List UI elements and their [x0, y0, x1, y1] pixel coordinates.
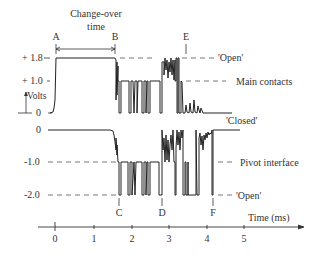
marker-b: B: [112, 31, 119, 42]
main-contacts-label: Main contacts: [236, 76, 292, 87]
x-tick-0: 0: [53, 233, 58, 244]
x-tick-3: 3: [167, 233, 172, 244]
x-tick-1: 1: [92, 233, 97, 244]
title-line-2: time: [87, 21, 105, 32]
top-ylabel-1p0: + 1.0: [22, 75, 43, 86]
top-ylabel-0: 0: [36, 107, 41, 118]
marker-d: D: [158, 207, 165, 218]
marker-f: F: [210, 207, 216, 218]
bottom-ylabel-m2: -2.0: [24, 189, 40, 200]
x-tick-2: 2: [130, 233, 135, 244]
x-tick-4: 4: [205, 233, 210, 244]
x-tick-5: 5: [242, 233, 247, 244]
bottom-ylabel-0: 0: [36, 124, 41, 135]
main-contacts-trace: [50, 58, 232, 113]
top-ylabel-1p8: + 1.8: [22, 52, 43, 63]
volts-label: Volts: [27, 91, 47, 101]
volts-arrow: [25, 92, 28, 113]
pivot-interface-label: Pivot interface: [240, 157, 299, 168]
bottom-open-label: 'Open': [236, 190, 261, 201]
bottom-ylabel-m1: -1.0: [24, 156, 40, 167]
marker-e: E: [183, 31, 189, 42]
time-axis-label: Time (ms): [248, 212, 290, 224]
top-closed-label: 'Closed': [226, 115, 258, 126]
contact-waveform-diagram: Change-over time A B + 1.8 + 1.0 0 Volts…: [0, 0, 320, 258]
marker-a: A: [52, 31, 60, 42]
title-line-1: Change-over: [70, 8, 122, 19]
pivot-interface-trace: [48, 130, 240, 195]
time-axis: [38, 222, 304, 231]
top-open-label: 'Open': [218, 52, 243, 63]
marker-c: C: [116, 207, 123, 218]
changeover-dimension: [56, 44, 115, 54]
